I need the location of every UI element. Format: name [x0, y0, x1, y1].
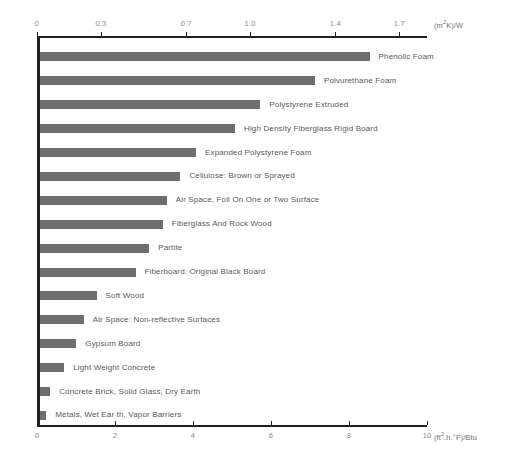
top-tick-mark: [37, 32, 38, 36]
bar-row: Air Space: Non-reflective Surfaces: [40, 308, 220, 332]
bar: [40, 315, 84, 324]
bar-label: Expanded Polystyrene Foam: [205, 149, 311, 157]
bar-row: Metals, Wet Ear th, Vapor Barriers: [40, 404, 181, 428]
plot-area: Phenolic FoamPolvurethane FoamPolystyren…: [40, 40, 527, 423]
bar-label: Fiberboard: Original Black Board: [145, 268, 266, 276]
bottom-tick-label: 0: [35, 431, 39, 440]
bar: [40, 148, 196, 157]
bar-row: Air Space, Foil On One or Two Surface: [40, 188, 319, 212]
bar-label: Air Space, Foil On One or Two Surface: [176, 196, 320, 204]
top-tick-mark: [250, 32, 251, 36]
top-tick-label: 1.7: [394, 19, 405, 28]
bar: [40, 220, 163, 229]
bottom-axis-unit-label: (ft2.h.°F)/Btu: [434, 431, 477, 442]
bar: [40, 52, 370, 61]
bar-label: Cellulose: Brown or Sprayed: [189, 172, 294, 180]
bar-label: Gypsum Board: [85, 340, 140, 348]
bar: [40, 411, 46, 420]
top-tick-label: 1.0: [245, 19, 256, 28]
bar-label: Metals, Wet Ear th, Vapor Barriers: [55, 411, 181, 419]
top-tick-label: 0.3: [95, 19, 106, 28]
bar: [40, 387, 50, 396]
bar: [40, 339, 76, 348]
bar-row: Fiberboard: Original Black Board: [40, 260, 265, 284]
bar: [40, 100, 260, 109]
bar-row: Phenolic Foam: [40, 45, 434, 69]
bottom-tick-label: 10: [423, 431, 432, 440]
top-axis-line: [37, 36, 427, 38]
bottom-tick-mark: [37, 421, 38, 425]
bar: [40, 124, 235, 133]
bar-row: High Density Fiberglass Rigid Board: [40, 117, 378, 141]
top-axis-unit-label: (m2K)/W: [434, 19, 463, 30]
top-tick-mark: [186, 32, 187, 36]
bar-label: Air Space: Non-reflective Surfaces: [93, 316, 220, 324]
top-tick-label: 0: [35, 19, 39, 28]
bar: [40, 291, 97, 300]
bar-row: Partite: [40, 236, 182, 260]
top-tick-label: 1.4: [330, 19, 341, 28]
r-value-bar-chart: 00.30.71.01.41.7 0246810 (m2K)/W (ft2.h.…: [0, 0, 529, 455]
bar-label: High Density Fiberglass Rigid Board: [244, 125, 378, 133]
bar-label: Concrete Brick, Solid Glass, Dry Earth: [59, 388, 200, 396]
bottom-tick-label: 6: [269, 431, 273, 440]
bar-label: Fiberglass And Rock Wood: [172, 220, 272, 228]
top-tick-label: 0.7: [181, 19, 192, 28]
bar-row: Light Weight Concrete: [40, 356, 155, 380]
top-tick-mark: [399, 32, 400, 36]
bar: [40, 268, 136, 277]
bottom-tick-label: 4: [191, 431, 195, 440]
bar: [40, 363, 64, 372]
bottom-tick-label: 8: [347, 431, 351, 440]
bar-label: Polvurethane Foam: [324, 77, 396, 85]
bar-label: Phenolic Foam: [379, 53, 434, 61]
bar-row: Cellulose: Brown or Sprayed: [40, 165, 295, 189]
bar-label: Light Weight Concrete: [73, 364, 155, 372]
bar-row: Fiberglass And Rock Wood: [40, 212, 272, 236]
bar-row: Concrete Brick, Solid Glass, Dry Earth: [40, 380, 200, 404]
bar-row: Soft Wood: [40, 284, 144, 308]
bar-row: Expanded Polystyrene Foam: [40, 141, 311, 165]
top-tick-mark: [101, 32, 102, 36]
bar-row: Polystyrene Extruded: [40, 93, 348, 117]
bar: [40, 172, 180, 181]
bottom-tick-label: 2: [113, 431, 117, 440]
bar-label: Polystyrene Extruded: [269, 101, 348, 109]
bar-label: Partite: [158, 244, 182, 252]
bar: [40, 76, 315, 85]
bar-row: Polvurethane Foam: [40, 69, 396, 93]
bar-row: Gypsum Board: [40, 332, 140, 356]
top-tick-mark: [335, 32, 336, 36]
bar: [40, 244, 149, 253]
bar-label: Soft Wood: [106, 292, 145, 300]
bar: [40, 196, 167, 205]
